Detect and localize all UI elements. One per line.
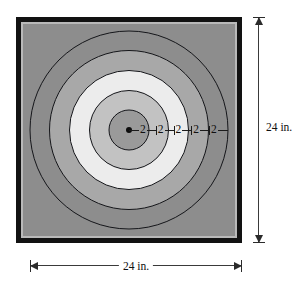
target-plate-inner-border: 2 2 2 2 2 [21,22,237,238]
target-plate-face: 2 2 2 2 2 [23,24,235,236]
radial-segment-label: 2 [210,124,218,136]
dimension-cap [253,242,265,243]
horizontal-dimension-label: 24 in. [119,260,153,272]
target-plate-frame: 2 2 2 2 2 [16,17,242,243]
vertical-dimension-line [258,17,259,243]
radial-segment: 2 [147,124,165,136]
radial-segment-label: 2 [157,124,165,136]
radial-segment: 2 [129,124,147,136]
dimension-tick-icon [147,125,157,136]
dimension-tick-icon [182,125,192,136]
arrow-up-icon [255,17,263,25]
dimension-cap [241,260,242,272]
dimension-lead-line [218,125,228,136]
dimension-tick-icon [165,125,175,136]
target-figure: 2 2 2 2 2 [0,0,298,287]
vertical-dimension-label: 24 in. [266,121,292,133]
arrow-left-icon [30,262,38,270]
radial-segment: 2 [182,124,200,136]
dimension-tick-icon [200,125,210,136]
radial-segment-label: 2 [192,124,200,136]
radial-segment: 2 [165,124,183,136]
radial-dimension-chain: 2 2 2 2 2 [129,122,228,138]
radial-segment-label: 2 [139,124,147,136]
radial-segment-label: 2 [175,124,183,136]
radial-segment: 2 [200,124,228,136]
horizontal-dimension-line: 24 in. [30,265,242,266]
dimension-lead-line [129,125,139,136]
